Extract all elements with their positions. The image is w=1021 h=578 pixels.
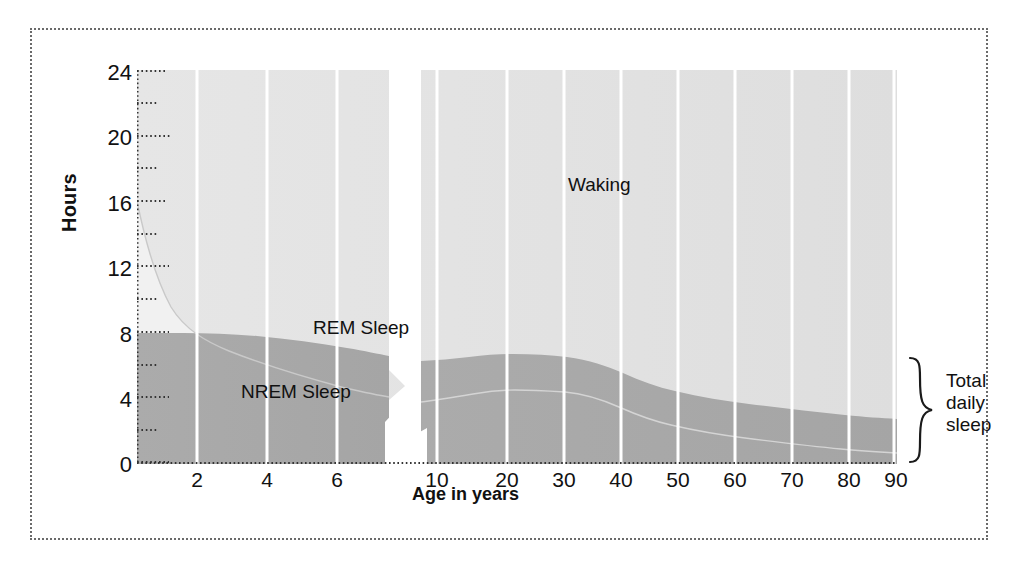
rem-sleep-label: REM Sleep (313, 317, 409, 339)
y-tick-4: 4 (86, 387, 132, 413)
plot-area (137, 70, 897, 464)
x-axis-title: Age in years (0, 484, 1021, 505)
y-tick-16: 16 (86, 191, 132, 217)
y-tick-8: 8 (86, 322, 132, 348)
total-label-line2: daily (946, 392, 991, 414)
total-sleep-bracket (906, 356, 936, 466)
sleep-across-lifespan-chart: Hours 24 20 16 12 8 4 0 (0, 0, 1021, 578)
nrem-sleep-label: NREM Sleep (241, 381, 351, 403)
waking-label: Waking (568, 174, 631, 196)
total-daily-sleep-label: Total daily sleep (946, 370, 991, 436)
y-tick-0: 0 (86, 452, 132, 478)
y-tick-12: 12 (86, 256, 132, 282)
total-label-line3: sleep (946, 414, 991, 436)
y-tick-20: 20 (86, 125, 132, 151)
plot-svg (137, 70, 897, 464)
x-axis-title-text: Age in years (412, 484, 519, 505)
y-axis-title: Hours (58, 173, 81, 232)
y-tick-24: 24 (86, 60, 132, 86)
total-label-line1: Total (946, 370, 991, 392)
